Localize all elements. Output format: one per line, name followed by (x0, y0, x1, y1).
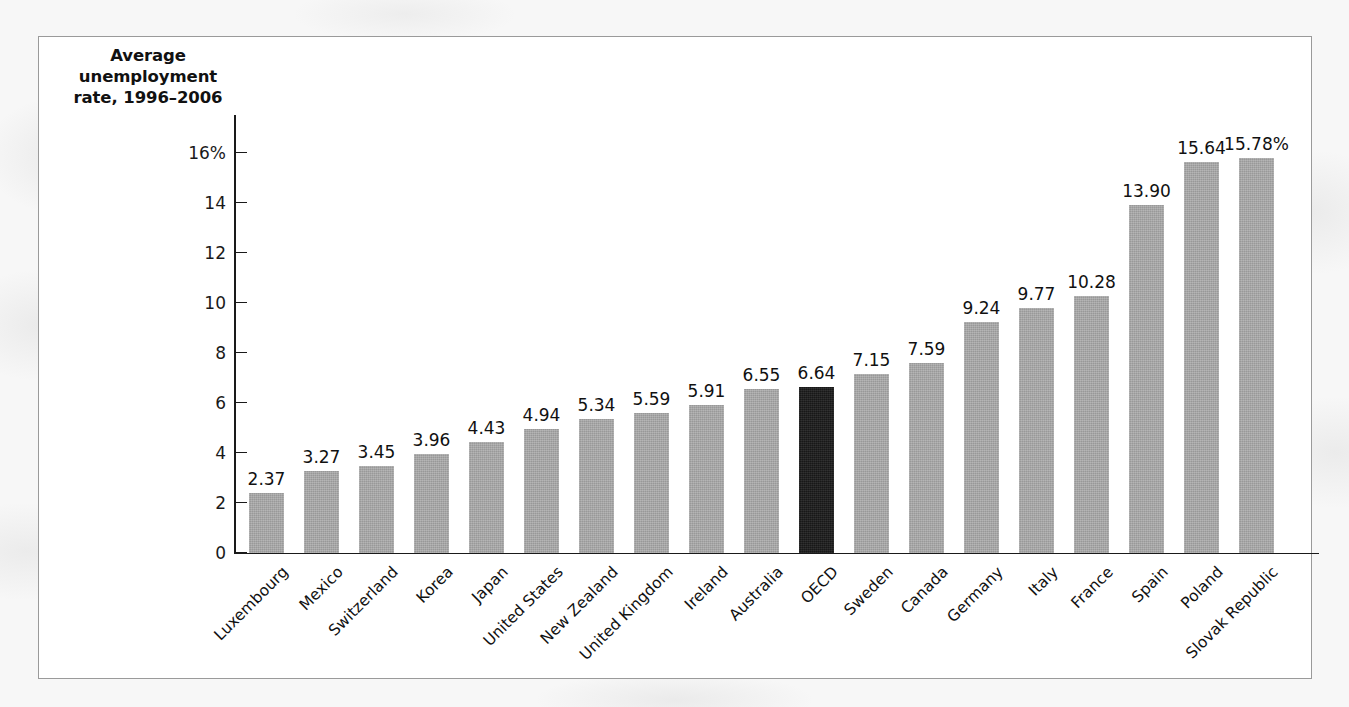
bar-group[interactable]: 4.94 (524, 115, 579, 553)
x-axis-label: OECD (797, 563, 841, 607)
bar[interactable] (359, 466, 394, 552)
y-tick-label: 14 (39, 193, 234, 213)
bar-value-label: 15.78% (1214, 134, 1300, 154)
y-axis-title: Average unemployment rate, 1996–2006 (57, 45, 239, 108)
bar[interactable] (469, 442, 504, 553)
y-tick-label: 10 (39, 293, 234, 313)
bar-value-label: 7.59 (884, 339, 970, 359)
bar[interactable] (854, 374, 889, 553)
x-axis-label: Japan (468, 563, 511, 606)
figure-frame: Average unemployment rate, 1996–2006 16%… (38, 36, 1312, 679)
y-tick-label: 8 (39, 343, 234, 363)
bar[interactable] (579, 419, 614, 553)
x-axis-label: Italy (1025, 563, 1062, 600)
x-axis-label: Australia (725, 563, 786, 624)
y-tick-label: 6 (39, 393, 234, 413)
bars-container: 2.373.273.453.964.434.945.345.595.916.55… (235, 115, 1319, 553)
x-axis-label: Poland (1177, 563, 1226, 612)
y-tick-label: 0 (39, 543, 234, 563)
bar-group[interactable]: 13.90 (1129, 115, 1184, 553)
bar-group[interactable]: 15.78% (1239, 115, 1294, 553)
bar-chart: Average unemployment rate, 1996–2006 16%… (39, 37, 1311, 678)
bar-group[interactable]: 7.59 (909, 115, 964, 553)
x-axis-label: Sweden (840, 563, 896, 619)
bar-group[interactable]: 6.64 (799, 115, 854, 553)
bar[interactable] (1074, 296, 1109, 553)
bar[interactable] (414, 454, 449, 553)
x-axis-label: Slovak Republic (1182, 563, 1281, 662)
bar[interactable] (634, 413, 669, 553)
bar[interactable] (1019, 308, 1054, 552)
bar[interactable] (744, 389, 779, 553)
bar-group[interactable]: 3.45 (359, 115, 414, 553)
bar-group[interactable]: 2.37 (249, 115, 304, 553)
x-axis-label: Spain (1128, 563, 1171, 606)
bar[interactable] (799, 387, 834, 553)
bar[interactable] (1129, 205, 1164, 553)
x-axis-label: Canada (897, 563, 951, 617)
bar-group[interactable]: 3.96 (414, 115, 469, 553)
y-tick-label: 2 (39, 493, 234, 513)
bar-group[interactable]: 9.77 (1019, 115, 1074, 553)
y-tick-label: 4 (39, 443, 234, 463)
bar-value-label: 2.37 (224, 469, 310, 489)
bar[interactable] (1239, 158, 1274, 553)
bar-group[interactable]: 7.15 (854, 115, 909, 553)
bar[interactable] (909, 363, 944, 553)
bar-group[interactable]: 5.34 (579, 115, 634, 553)
bar[interactable] (304, 471, 339, 553)
bar[interactable] (524, 429, 559, 553)
x-axis-label: France (1067, 563, 1116, 612)
bar-group[interactable]: 5.91 (689, 115, 744, 553)
y-tick-label: 12 (39, 243, 234, 263)
x-axis-line (234, 553, 1319, 555)
bar-value-label: 13.90 (1104, 181, 1190, 201)
bar-group[interactable]: 9.24 (964, 115, 1019, 553)
x-axis-label: Ireland (681, 563, 732, 614)
bar[interactable] (964, 322, 999, 553)
bar-group[interactable]: 3.27 (304, 115, 359, 553)
bar-group[interactable]: 15.64 (1184, 115, 1239, 553)
bar-group[interactable]: 4.43 (469, 115, 524, 553)
x-axis-label: Mexico (295, 563, 346, 614)
x-axis-label: Germany (943, 563, 1006, 626)
bar-value-label: 10.28 (1049, 272, 1135, 292)
bar-group[interactable]: 5.59 (634, 115, 689, 553)
bar-group[interactable]: 6.55 (744, 115, 799, 553)
bar[interactable] (689, 405, 724, 553)
x-axis-label: Luxembourg (210, 563, 291, 644)
bar[interactable] (1184, 162, 1219, 553)
y-tick-label: 16% (39, 143, 234, 163)
x-axis-label: United Kingdom (576, 563, 677, 664)
page-background: Average unemployment rate, 1996–2006 16%… (0, 0, 1349, 707)
bar[interactable] (249, 493, 284, 552)
x-axis-category-labels: LuxembourgMexicoSwitzerlandKoreaJapanUni… (235, 557, 1319, 677)
x-axis-label: Korea (412, 563, 456, 607)
